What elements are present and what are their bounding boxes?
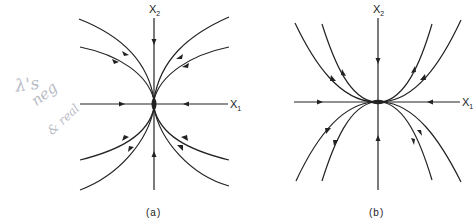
arrow-icon	[330, 75, 336, 81]
arrow-icon	[411, 66, 416, 73]
arrow-icon	[411, 138, 415, 145]
caption-b: (b)	[369, 208, 384, 218]
arrow-icon	[427, 100, 433, 105]
arrow-icon	[417, 130, 422, 136]
arrow-icon	[317, 100, 323, 105]
arrow-icon	[420, 74, 426, 80]
arrow-icon	[376, 58, 381, 64]
arrow-icon	[325, 128, 331, 134]
phase-portrait-b	[0, 0, 473, 224]
x2-axis-label-b: X2	[373, 4, 384, 17]
arrow-icon	[341, 69, 346, 76]
x1-axis-label-b: X1	[462, 97, 473, 110]
arrow-icon	[376, 135, 381, 141]
